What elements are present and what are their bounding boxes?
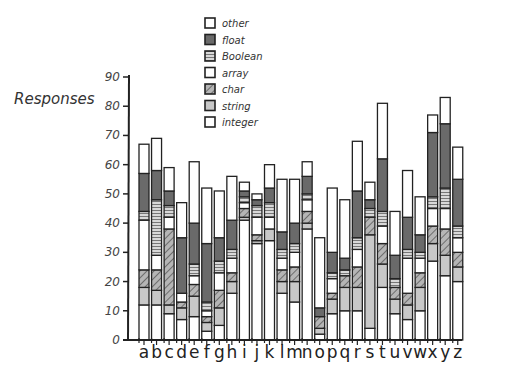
bar-segment-other	[189, 162, 199, 223]
bar-segment-float	[415, 235, 425, 253]
x-tick-label: d	[176, 342, 187, 362]
x-tick-label: h	[226, 342, 237, 362]
bar-segment-boolean	[390, 279, 400, 288]
bar-segment-other	[365, 182, 375, 200]
bar-segment-char	[390, 287, 400, 299]
bar-segment-string	[428, 244, 438, 262]
bar-segment-integer	[227, 293, 237, 340]
bar-segment-float	[377, 159, 387, 212]
bar-segment-array	[265, 217, 275, 229]
bar-segment-integer	[214, 325, 224, 340]
bar-segment-integer	[302, 229, 312, 340]
y-axis: 0102030405060708090	[105, 70, 129, 347]
bar-segment-array	[177, 293, 187, 302]
bar-segment-array	[239, 203, 249, 209]
bar-segment-other	[453, 147, 463, 179]
y-tick-label: 80	[105, 99, 121, 113]
legend-swatch	[205, 35, 215, 45]
bar-segment-other	[377, 103, 387, 159]
bar-segment-boolean	[202, 302, 212, 311]
y-tick-label: 60	[105, 158, 121, 172]
bar-segment-other	[227, 176, 237, 220]
bar-segment-integer	[403, 320, 413, 340]
x-tick-label: b	[151, 342, 162, 362]
bar-segment-float	[403, 217, 413, 249]
legend-item-integer: integer	[205, 117, 259, 128]
bar-segment-integer	[164, 314, 174, 340]
y-tick-label: 0	[112, 333, 120, 347]
bar-segment-char	[302, 211, 312, 223]
bar-segment-boolean	[239, 197, 249, 203]
bar-segment-float	[365, 200, 375, 209]
bar-segment-integer	[377, 287, 387, 340]
bar-segment-char	[139, 270, 149, 288]
y-tick-label: 30	[105, 245, 121, 259]
bar-segment-boolean	[302, 194, 312, 200]
bar-segment-other	[152, 138, 162, 170]
bar-a	[139, 144, 149, 340]
legend-swatch	[205, 117, 215, 127]
x-tick-label: f	[204, 342, 211, 362]
x-tick-label: q	[339, 342, 350, 362]
bar-segment-boolean	[265, 203, 275, 218]
bar-segment-float	[428, 133, 438, 197]
legend-swatch	[205, 68, 215, 78]
x-tick-label: k	[265, 342, 275, 362]
bar-c	[164, 168, 174, 340]
bar-segment-other	[352, 141, 362, 191]
bar-segment-string	[415, 287, 425, 310]
x-tick-label: w	[413, 342, 427, 362]
bar-segment-integer	[290, 302, 300, 340]
y-tick-label: 10	[105, 304, 121, 318]
x-tick-label: e	[189, 342, 199, 362]
bar-segment-integer	[415, 311, 425, 340]
bar-segment-float	[214, 238, 224, 261]
legend-item-boolean: Boolean	[205, 51, 263, 62]
bar-segment-other	[277, 179, 287, 232]
bar-p	[327, 188, 337, 340]
x-tick-label: l	[280, 342, 285, 362]
bar-segment-char	[252, 235, 262, 241]
bar-segment-boolean	[152, 200, 162, 256]
bar-segment-char	[290, 267, 300, 282]
bar-segment-char	[377, 244, 387, 264]
bar-segment-integer	[177, 320, 187, 340]
bar-segment-boolean	[214, 261, 224, 273]
bar-segment-boolean	[352, 238, 362, 250]
bar-segment-boolean	[139, 211, 149, 220]
bar-segment-string	[164, 305, 174, 314]
bar-segment-char	[152, 270, 162, 290]
bar-segment-string	[202, 322, 212, 331]
legend: otherfloatBooleanarraycharstringinteger	[205, 18, 263, 128]
bar-segment-boolean	[415, 252, 425, 258]
bar-g	[214, 191, 224, 340]
bar-segment-char	[277, 270, 287, 282]
bar-segment-other	[290, 179, 300, 223]
bar-segment-string	[377, 264, 387, 287]
bar-segment-boolean	[290, 244, 300, 253]
bar-segment-string	[453, 267, 463, 282]
bar-d	[177, 203, 187, 340]
bar-segment-integer	[327, 314, 337, 340]
bar-segment-string	[139, 287, 149, 305]
bar-segment-integer	[202, 331, 212, 340]
bar-segment-char	[202, 317, 212, 323]
bar-segment-integer	[239, 220, 249, 340]
bar-segment-array	[453, 238, 463, 253]
bar-segment-float	[152, 171, 162, 200]
bar-segment-integer	[390, 314, 400, 340]
bar-segment-boolean	[403, 249, 413, 258]
legend-swatch	[205, 18, 215, 28]
bar-segment-float	[139, 173, 149, 211]
legend-label: other	[222, 18, 250, 29]
x-tick-label: v	[403, 342, 413, 362]
bar-l	[277, 179, 287, 340]
bar-segment-other	[415, 197, 425, 235]
bar-segment-other	[239, 182, 249, 191]
bar-segment-array	[202, 311, 212, 317]
bar-segment-other	[390, 211, 400, 255]
bar-b	[152, 138, 162, 340]
bar-i	[239, 182, 249, 340]
bar-segment-other	[302, 162, 312, 177]
x-tick-label: t	[379, 342, 386, 362]
